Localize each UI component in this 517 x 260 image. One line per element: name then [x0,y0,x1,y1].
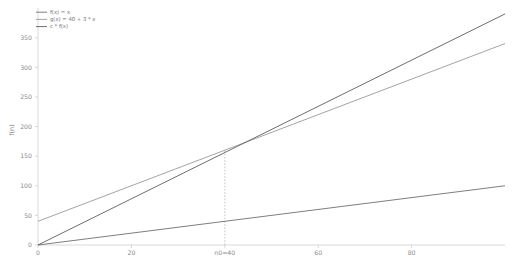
legend-label-g: g(x) = 40 + 3 * x [50,16,96,23]
y-tick-label: 0 [28,241,32,248]
x-tick-label-n0: n0=40 [214,249,235,256]
y-tick-label: 300 [20,64,32,71]
x-tick-label: 0 [36,249,40,256]
y-tick-label: 200 [20,123,32,130]
y-tick-label: 150 [20,152,32,159]
x-tick-label: 60 [314,249,322,256]
x-axis-ticks: 0 20 n0=40 60 80 [36,245,416,256]
chart-legend: f(x) = x g(x) = 40 + 3 * x c * f(x) [36,9,96,29]
x-tick-label: 80 [408,249,416,256]
y-tick-label: 350 [20,34,32,41]
y-axis-ticks: 0 50 100 150 200 250 300 350 [20,34,38,248]
series-line-cf [38,14,505,245]
x-tick-label: 20 [127,249,135,256]
legend-label-cf: c * f(x) [50,23,68,29]
legend-label-f: f(x) = x [50,9,70,15]
y-tick-label: 250 [20,93,32,100]
chart-canvas: 0 50 100 150 200 250 300 350 0 20 n0=40 [0,0,517,260]
y-tick-label: 50 [24,212,32,219]
y-tick-label: 100 [20,182,32,189]
chart-figure: 0 50 100 150 200 250 300 350 0 20 n0=40 [0,0,517,260]
y-axis-title: f(n) [8,124,16,135]
